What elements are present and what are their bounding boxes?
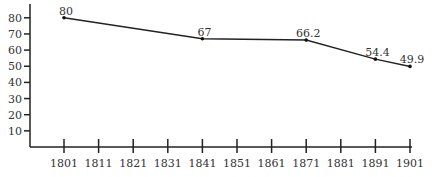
x-tick-label: 1901 — [396, 157, 424, 170]
y-tick-label: 50 — [8, 60, 22, 73]
data-label: 67 — [197, 26, 211, 39]
x-tick-label: 1861 — [258, 157, 286, 170]
x-tick-label: 1851 — [223, 157, 251, 170]
data-label: 54.4 — [365, 46, 390, 59]
x-tick-label: 1831 — [154, 157, 182, 170]
x-tick-label: 1841 — [188, 157, 216, 170]
x-tick-label: 1881 — [327, 157, 355, 170]
x-tick-label: 1821 — [119, 157, 147, 170]
x-tick-label: 1811 — [85, 157, 113, 170]
y-tick-label: 40 — [8, 76, 22, 89]
y-tick-label: 30 — [8, 93, 22, 106]
data-label: 49.9 — [400, 53, 425, 66]
series: 806766.254.449.9 — [59, 5, 424, 68]
y-tick-label: 70 — [8, 28, 22, 41]
x-ticks: 1801181118211831184118511861187118811891… — [50, 139, 424, 170]
line-chart: 1020304050607080 18011811182118311841185… — [0, 0, 432, 177]
y-tick-label: 60 — [8, 44, 22, 57]
y-tick-label: 80 — [8, 12, 22, 25]
x-tick-label: 1801 — [50, 157, 78, 170]
data-label: 66.2 — [296, 27, 321, 40]
data-label: 80 — [59, 5, 73, 18]
y-tick-label: 20 — [8, 109, 22, 122]
y-ticks: 1020304050607080 — [8, 12, 30, 138]
x-tick-label: 1891 — [361, 157, 389, 170]
x-tick-label: 1871 — [292, 157, 320, 170]
series-line — [64, 18, 410, 67]
y-tick-label: 10 — [8, 125, 22, 138]
